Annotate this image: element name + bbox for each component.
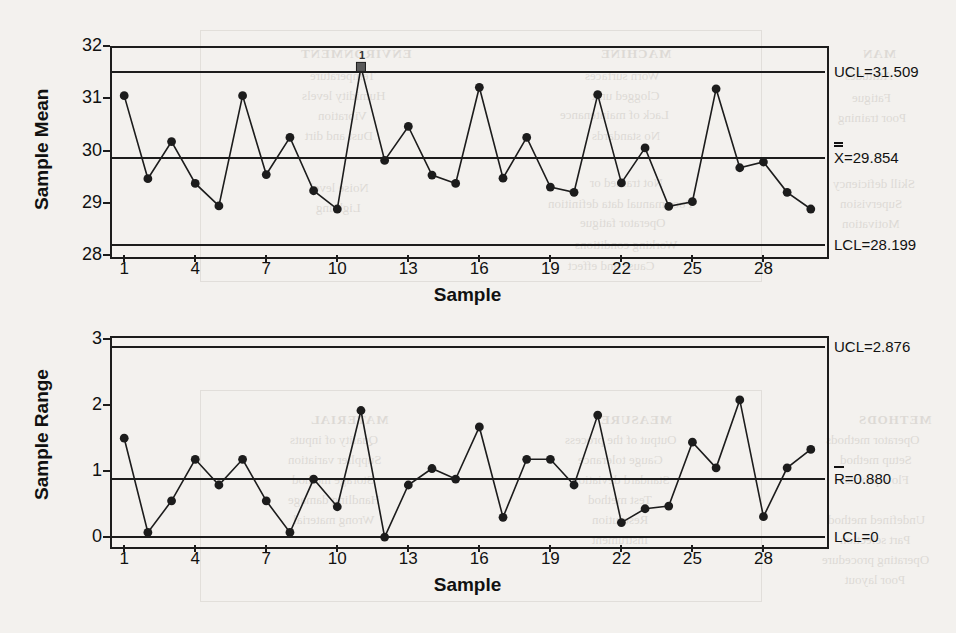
data-point[interactable] [522,455,531,464]
data-point[interactable] [499,513,508,522]
data-point[interactable] [120,434,129,443]
data-point[interactable] [143,528,152,537]
data-point[interactable] [167,496,176,505]
data-point[interactable] [712,463,721,472]
data-series [0,0,956,633]
data-point[interactable] [357,406,366,415]
data-point[interactable] [759,512,768,521]
data-point[interactable] [570,481,579,490]
data-point[interactable] [451,475,460,484]
data-point[interactable] [286,528,295,537]
data-point[interactable] [546,455,555,464]
data-point[interactable] [617,518,626,527]
data-point[interactable] [664,502,673,511]
data-point[interactable] [806,445,815,454]
data-point[interactable] [262,496,271,505]
data-point[interactable] [309,475,318,484]
data-point[interactable] [380,533,389,542]
data-point[interactable] [783,463,792,472]
data-point[interactable] [641,504,650,513]
data-point[interactable] [688,438,697,447]
data-point[interactable] [735,396,744,405]
data-point[interactable] [215,481,224,490]
data-point[interactable] [428,464,437,473]
data-point[interactable] [191,455,200,464]
data-point[interactable] [475,423,484,432]
data-point[interactable] [238,455,247,464]
data-point[interactable] [404,481,413,490]
data-point[interactable] [333,502,342,511]
sample-range-control-chart: Sample Range321014710131619222528SampleU… [0,0,956,633]
series-line [124,400,811,537]
data-point[interactable] [593,411,602,420]
